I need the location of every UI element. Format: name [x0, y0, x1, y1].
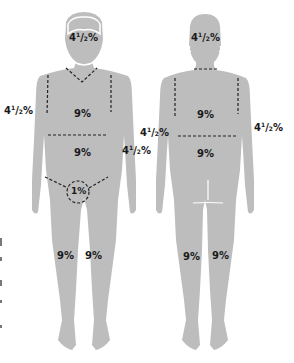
front-left-leg-label: 9% [85, 251, 102, 261]
body-diagram [0, 0, 294, 363]
back-right-arm-label: 41/2% [254, 122, 283, 133]
front-abdomen-label: 9% [74, 148, 91, 158]
front-figure [32, 12, 136, 350]
back-left-leg-label: 9% [183, 252, 200, 262]
front-left-arm-label: 41/2% [122, 145, 151, 156]
back-lower-label: 9% [197, 149, 214, 159]
edge-mark [0, 280, 2, 286]
front-right-leg-label: 9% [57, 251, 74, 261]
back-left-arm-label: 41/2% [140, 127, 169, 138]
edge-mark [0, 257, 2, 261]
back-right-leg-label: 9% [212, 251, 229, 261]
back-figure [156, 14, 254, 350]
front-right-arm-label: 41/2% [4, 105, 33, 116]
front-chest-label: 9% [74, 109, 91, 119]
edge-mark [0, 238, 2, 246]
edge-mark [0, 325, 2, 328]
front-genitals-label: 1% [71, 187, 86, 196]
edge-mark [0, 300, 2, 303]
back-head-label: 41/2% [191, 32, 220, 43]
front-head-label: 41/2% [69, 32, 98, 43]
back-upper-label: 9% [197, 110, 214, 120]
